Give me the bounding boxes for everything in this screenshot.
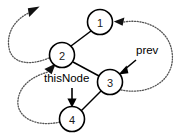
node-pointer-diagram: prev thisNode 1 2 3 4: [0, 0, 180, 140]
solid-edge-3-to-4: [81, 91, 101, 111]
node-3-label: 3: [107, 77, 113, 89]
dotted-edge-3-to-1-path: [121, 21, 172, 91]
dotted-edge-3-to-1-arrowhead: [114, 18, 125, 26]
node-4: 4: [60, 107, 85, 132]
node-4-label: 4: [69, 114, 75, 126]
node-2: 2: [50, 43, 75, 68]
pointer-thisnode: thisNode: [44, 72, 89, 108]
node-1-label: 1: [97, 17, 103, 29]
dotted-edge-2-to-external-arrowhead: [28, 6, 40, 17]
diagram-canvas: prev thisNode 1 2 3 4: [0, 0, 180, 140]
solid-edge-2-to-1: [71, 31, 91, 46]
pointer-thisnode-label: thisNode: [44, 72, 89, 84]
node-3: 3: [98, 70, 123, 95]
node-1: 1: [88, 10, 113, 35]
dotted-edge-2-to-external-path: [8, 12, 49, 63]
pointer-prev: prev: [119, 44, 159, 75]
pointer-prev-label: prev: [136, 44, 159, 56]
node-2-label: 2: [59, 50, 65, 62]
dotted-edge-2-to-external: [8, 6, 49, 62]
